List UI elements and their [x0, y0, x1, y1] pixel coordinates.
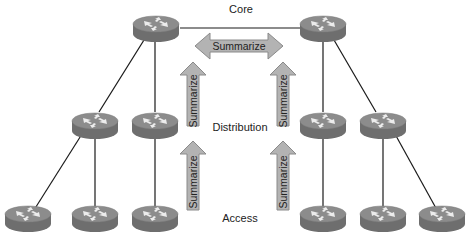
router-icon-access-right-1: [300, 206, 346, 232]
summarize-arrow-right-upper: Summarize: [270, 62, 296, 128]
router-icon-access-right-3: [419, 206, 465, 232]
summarize-arrow-right-lower: Summarize: [270, 141, 296, 210]
layer-label-distribution: Distribution: [212, 121, 267, 133]
router-icon-core-right: [300, 16, 346, 42]
summarize-arrow-left-lower: Summarize: [180, 141, 206, 210]
layer-label-access: Access: [222, 212, 258, 224]
router-icon-dist-left-2: [132, 113, 178, 139]
summarize-arrow-core: Summarize: [195, 33, 283, 59]
hierarchical-network-diagram: Summarize Summarize Summarize Summarize …: [0, 0, 469, 239]
summarize-label-left-upper: Summarize: [187, 74, 199, 127]
summarize-label-left-lower: Summarize: [187, 155, 199, 208]
router-icon-access-right-2: [360, 206, 406, 232]
router-icon-dist-right-1: [300, 113, 346, 139]
summarize-label-core: Summarize: [212, 40, 265, 52]
summarize-label-right-lower: Summarize: [277, 155, 289, 208]
link-dist-left-1-access-left-1: [34, 134, 82, 210]
summarize-label-right-upper: Summarize: [277, 74, 289, 127]
link-core-right-dist-right-2: [334, 40, 376, 112]
router-icon-access-left-3: [132, 206, 178, 232]
layer-label-core: Core: [229, 3, 253, 15]
router-icon-dist-left-1: [72, 113, 118, 139]
router-icon-access-left-1: [5, 206, 51, 232]
link-dist-right-2-access-right-3: [395, 134, 437, 210]
router-icon-dist-right-2: [360, 113, 406, 139]
router-icon-core-left: [133, 16, 179, 42]
link-core-left-dist-left-1: [99, 40, 144, 112]
router-icon-access-left-2: [72, 206, 118, 232]
summarize-arrow-left-upper: Summarize: [180, 62, 206, 128]
